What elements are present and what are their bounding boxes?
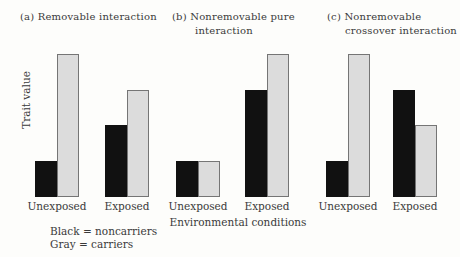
panel-b-title-line1: (b) Nonremovable pure xyxy=(172,11,295,22)
legend-carriers: Gray = carriers xyxy=(50,238,157,251)
panel-a-title-line1: (a) Removable interaction xyxy=(20,11,157,22)
bar-a-exposed-carriers xyxy=(127,90,149,197)
bar-c-exposed-noncarriers xyxy=(393,90,415,197)
panel-c-title-line1: (c) Nonremovable xyxy=(327,11,421,22)
x-axis-label: Environmental conditions xyxy=(169,216,306,228)
panel-c-title: (c) Nonremovable crossover interaction xyxy=(327,10,457,38)
bar-b-exposed-carriers xyxy=(267,54,289,197)
panel-c-label-exposed: Exposed xyxy=(393,200,438,212)
bar-b-unexposed-noncarriers xyxy=(176,161,198,197)
bar-a-exposed-noncarriers xyxy=(105,125,127,197)
panel-a-label-unexposed: Unexposed xyxy=(27,200,86,212)
panel-b-label-unexposed: Unexposed xyxy=(168,200,227,212)
bar-b-unexposed-carriers xyxy=(198,161,220,197)
bar-a-unexposed-noncarriers xyxy=(35,161,57,197)
panel-a-label-exposed: Exposed xyxy=(105,200,150,212)
bar-c-unexposed-carriers xyxy=(348,54,370,197)
panel-b-title: (b) Nonremovable pure interaction xyxy=(172,10,295,38)
panel-b-label-exposed: Exposed xyxy=(245,200,290,212)
panel-c-label-unexposed: Unexposed xyxy=(318,200,377,212)
bar-c-exposed-carriers xyxy=(415,125,437,197)
panel-a-title: (a) Removable interaction xyxy=(20,10,157,24)
panel-c-title-line2: crossover interaction xyxy=(345,24,457,38)
legend-noncarriers: Black = noncarriers xyxy=(50,225,157,238)
panel-b-title-line2: interaction xyxy=(195,24,295,38)
bar-a-unexposed-carriers xyxy=(57,54,79,197)
y-axis-label: Trait value xyxy=(20,71,32,129)
bar-c-unexposed-noncarriers xyxy=(326,161,348,197)
legend: Black = noncarriers Gray = carriers xyxy=(50,225,157,251)
bar-b-exposed-noncarriers xyxy=(245,90,267,197)
gene-environment-interaction-figure: (a) Removable interaction (b) Nonremovab… xyxy=(0,0,460,257)
